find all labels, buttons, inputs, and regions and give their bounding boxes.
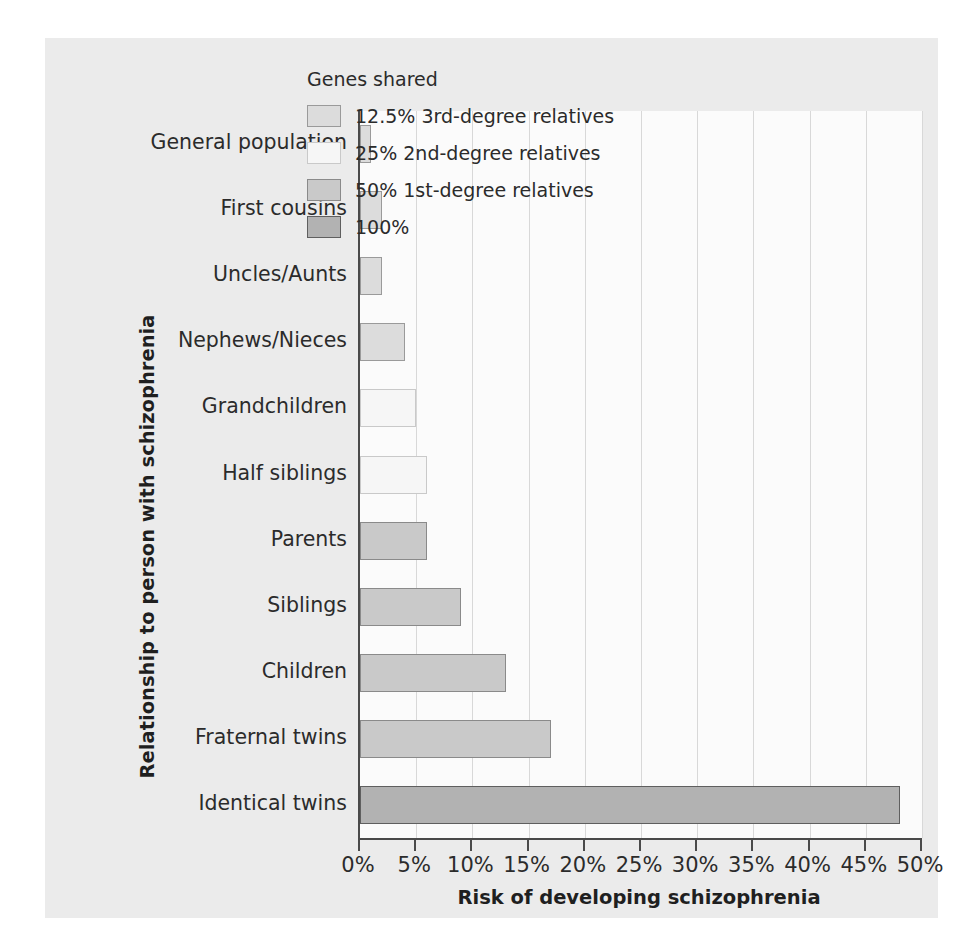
- legend-item[interactable]: 25% 2nd-degree relatives: [307, 136, 627, 170]
- gridline: [697, 111, 698, 838]
- legend-label: 100%: [355, 216, 409, 238]
- x-tick-label: 20%: [559, 853, 606, 877]
- x-tick-label: 10%: [447, 853, 494, 877]
- gridline: [641, 111, 642, 838]
- y-axis-category-label: Grandchildren: [97, 394, 347, 418]
- x-tick-label: 50%: [897, 853, 944, 877]
- y-axis-category-label: Children: [97, 659, 347, 683]
- x-tick-label: 0%: [341, 853, 374, 877]
- bar: [360, 654, 506, 692]
- x-tick-label: 15%: [503, 853, 550, 877]
- bar-row: [360, 522, 427, 560]
- y-axis-category-label: Identical twins: [97, 791, 347, 815]
- x-tick-label: 45%: [840, 853, 887, 877]
- legend-items: 12.5% 3rd-degree relatives25% 2nd-degree…: [307, 99, 627, 244]
- bar-row: [360, 786, 900, 824]
- legend-item[interactable]: 100%: [307, 210, 627, 244]
- bar-row: [360, 588, 461, 626]
- gridline: [810, 111, 811, 838]
- bar: [360, 522, 427, 560]
- bar: [360, 456, 427, 494]
- x-tick-label: 30%: [672, 853, 719, 877]
- chart-figure: Relationship to person with schizophreni…: [0, 0, 970, 940]
- x-tick-label: 5%: [398, 853, 431, 877]
- bar: [360, 786, 900, 824]
- x-tick-mark: [695, 840, 697, 851]
- legend-label: 12.5% 3rd-degree relatives: [355, 105, 614, 127]
- x-tick-mark: [358, 840, 360, 851]
- x-tick-label: 40%: [784, 853, 831, 877]
- bar: [360, 389, 416, 427]
- y-axis-category-label: Siblings: [97, 593, 347, 617]
- bar-row: [360, 323, 405, 361]
- legend: Genes shared 12.5% 3rd-degree relatives2…: [307, 68, 627, 247]
- x-tick-mark: [639, 840, 641, 851]
- bar: [360, 257, 382, 295]
- bar: [360, 588, 461, 626]
- bar-row: [360, 257, 382, 295]
- x-tick-mark: [751, 840, 753, 851]
- bar: [360, 323, 405, 361]
- x-axis-title: Risk of developing schizophrenia: [358, 886, 920, 909]
- bar-row: [360, 720, 551, 758]
- y-axis-category-label: Half siblings: [97, 461, 347, 485]
- x-tick-mark: [527, 840, 529, 851]
- bar-row: [360, 654, 506, 692]
- legend-label: 50% 1st-degree relatives: [355, 179, 594, 201]
- bar-row: [360, 456, 427, 494]
- bar: [360, 720, 551, 758]
- x-tick-mark: [808, 840, 810, 851]
- chart-panel: Relationship to person with schizophreni…: [45, 38, 938, 918]
- x-tick-mark: [414, 840, 416, 851]
- gridline: [866, 111, 867, 838]
- y-axis-category-label: Fraternal twins: [97, 725, 347, 749]
- x-tick-mark: [920, 840, 922, 851]
- legend-item[interactable]: 12.5% 3rd-degree relatives: [307, 99, 627, 133]
- gridline: [753, 111, 754, 838]
- legend-swatch: [307, 105, 341, 127]
- y-axis-category-label: Nephews/Nieces: [97, 328, 347, 352]
- y-axis-category-label: Uncles/Aunts: [97, 262, 347, 286]
- legend-title: Genes shared: [307, 68, 627, 90]
- x-tick-label: 35%: [728, 853, 775, 877]
- legend-label: 25% 2nd-degree relatives: [355, 142, 601, 164]
- legend-item[interactable]: 50% 1st-degree relatives: [307, 173, 627, 207]
- legend-swatch: [307, 179, 341, 201]
- x-tick-mark: [583, 840, 585, 851]
- x-axis-ticks: 0%5%10%15%20%25%30%35%40%45%50%: [358, 840, 920, 880]
- x-tick-label: 25%: [616, 853, 663, 877]
- x-tick-mark: [470, 840, 472, 851]
- gridline: [922, 111, 923, 838]
- bar-row: [360, 389, 416, 427]
- legend-swatch: [307, 216, 341, 238]
- x-tick-mark: [864, 840, 866, 851]
- legend-swatch: [307, 142, 341, 164]
- y-axis-category-label: Parents: [97, 527, 347, 551]
